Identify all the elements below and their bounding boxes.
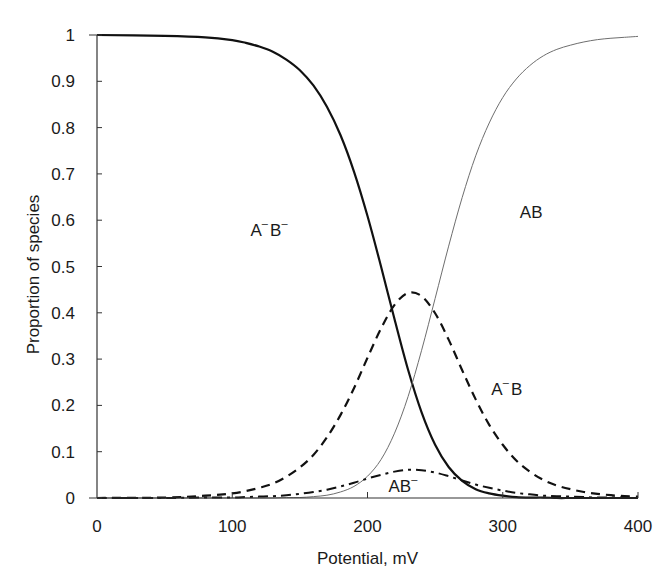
x-tick-label: 200: [353, 517, 381, 536]
y-tick-label: 0.7: [51, 165, 75, 184]
curve-label: AB: [520, 203, 543, 222]
curve-label-spacer: [417, 482, 419, 494]
curve-label-letter: B: [270, 221, 281, 240]
species-distribution-chart: 00.10.20.30.40.50.60.70.80.91 0100200300…: [0, 0, 670, 587]
curve-labels: A– B– ABA– BAB–: [250, 203, 542, 496]
curve-label-letter: B: [511, 380, 522, 399]
series-line-a-b: [97, 292, 638, 498]
series-line-a-b-minus: [97, 35, 638, 498]
curve-label-letter: A: [389, 477, 401, 496]
y-axis-title: Proportion of species: [24, 195, 43, 355]
curve-label-letter: A: [491, 380, 503, 399]
curve-label: A– B–: [250, 217, 289, 240]
y-tick-label: 0.2: [51, 396, 75, 415]
plot-curves: [97, 35, 638, 498]
curve-label: AB–: [389, 473, 420, 496]
curve-label: A– B: [491, 376, 522, 399]
y-tick-label: 0: [66, 489, 75, 508]
y-tick-label: 0.8: [51, 119, 75, 138]
axes: 00.10.20.30.40.50.60.70.80.91 0100200300…: [51, 26, 652, 536]
curve-label-spacer: [288, 226, 290, 238]
y-tick-label: 0.9: [51, 72, 75, 91]
curve-label-letter: B: [531, 203, 542, 222]
series-line-ab: [97, 36, 638, 498]
curve-label-letter: A: [520, 203, 532, 222]
y-tick-label: 0.3: [51, 350, 75, 369]
x-tick-label: 0: [92, 517, 101, 536]
x-tick-label: 300: [489, 517, 517, 536]
y-axis-ticks: 00.10.20.30.40.50.60.70.80.91: [51, 26, 102, 508]
x-axis-title: Potential, mV: [317, 549, 419, 568]
y-tick-label: 0.4: [51, 304, 75, 323]
y-tick-label: 0.6: [51, 211, 75, 230]
x-tick-label: 100: [218, 517, 246, 536]
curve-label-letter: A: [250, 221, 262, 240]
y-tick-label: 0.1: [51, 443, 75, 462]
y-tick-label: 0.5: [51, 258, 75, 277]
x-tick-label: 400: [624, 517, 652, 536]
y-tick-label: 1: [66, 26, 75, 45]
curve-label-letter: B: [400, 477, 411, 496]
